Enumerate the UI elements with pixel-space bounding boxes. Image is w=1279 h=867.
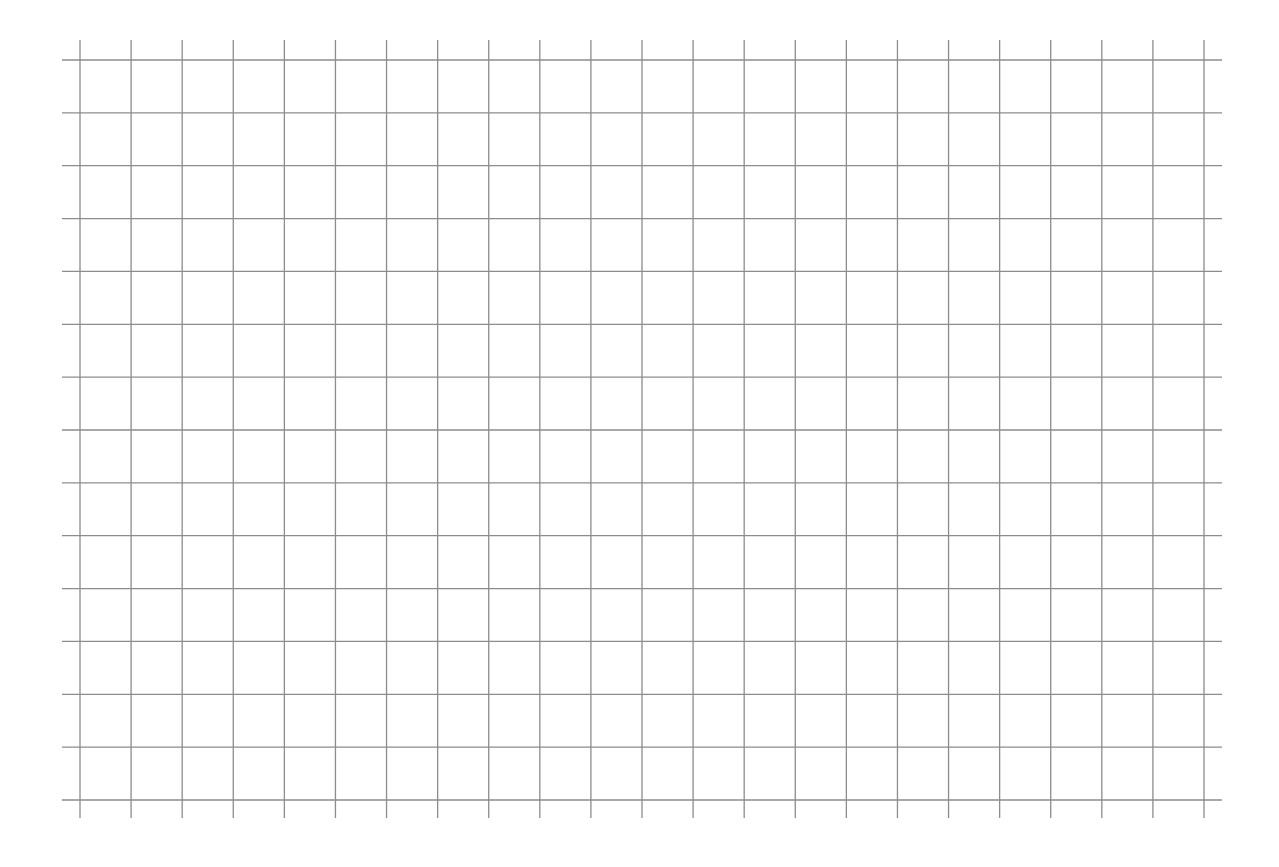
graph-paper-page xyxy=(0,0,1279,867)
grid-lines xyxy=(0,0,1279,867)
